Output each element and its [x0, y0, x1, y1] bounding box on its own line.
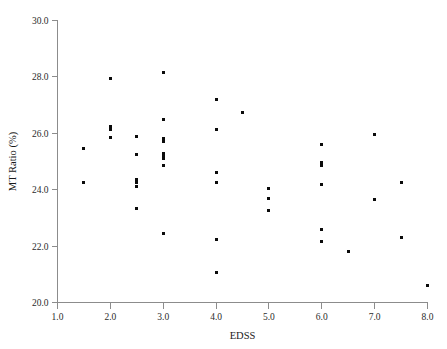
y-tick-label-2: 24.0: [32, 185, 49, 195]
data-point: [215, 128, 218, 131]
data-point: [320, 183, 323, 186]
data-point: [135, 178, 138, 181]
x-tick-label-2: 3.0: [157, 312, 169, 322]
data-point: [109, 128, 112, 131]
data-point: [373, 133, 376, 136]
y-tick-label-5: 30.0: [32, 16, 49, 26]
data-point: [320, 164, 323, 167]
scatter-chart: 20.022.024.026.028.030.01.02.03.04.05.06…: [0, 0, 447, 349]
x-tick-label-5: 6.0: [316, 312, 328, 322]
data-point: [162, 71, 165, 74]
data-point: [162, 140, 165, 143]
data-point: [215, 181, 218, 184]
data-point: [267, 209, 270, 212]
data-point: [347, 250, 350, 253]
x-tick-label-0: 1.0: [52, 312, 64, 322]
data-point: [320, 240, 323, 243]
data-point: [215, 171, 218, 174]
data-point: [135, 185, 138, 188]
data-point: [109, 136, 112, 139]
data-point: [267, 187, 270, 190]
plot-canvas: 20.022.024.026.028.030.01.02.03.04.05.06…: [0, 0, 447, 349]
data-point: [109, 77, 112, 80]
data-point: [135, 135, 138, 138]
y-tick-label-3: 26.0: [32, 129, 49, 139]
x-tick-label-7: 8.0: [422, 312, 434, 322]
data-point: [215, 271, 218, 274]
data-point: [215, 98, 218, 101]
y-axis-title: MT Ratio (%): [7, 131, 19, 191]
data-point: [162, 157, 165, 160]
data-point: [135, 153, 138, 156]
data-point: [400, 236, 403, 239]
data-point: [162, 137, 165, 140]
data-point: [320, 228, 323, 231]
data-point: [162, 154, 165, 157]
y-tick-label-0: 20.0: [32, 298, 49, 308]
data-point: [135, 207, 138, 210]
x-tick-label-1: 2.0: [104, 312, 116, 322]
data-point: [320, 161, 323, 164]
data-point: [267, 197, 270, 200]
data-point: [373, 198, 376, 201]
data-point: [162, 118, 165, 121]
data-point: [135, 181, 138, 184]
y-tick-label-4: 28.0: [32, 72, 49, 82]
x-tick-label-3: 4.0: [210, 312, 222, 322]
data-point: [109, 125, 112, 128]
data-point: [400, 181, 403, 184]
data-point: [82, 181, 85, 184]
y-tick-label-1: 22.0: [32, 242, 49, 252]
x-axis-title: EDSS: [230, 330, 256, 341]
data-point: [215, 238, 218, 241]
data-point: [426, 284, 429, 287]
data-point: [320, 143, 323, 146]
data-point: [241, 111, 244, 114]
x-tick-label-6: 7.0: [369, 312, 381, 322]
data-point: [162, 232, 165, 235]
data-point: [162, 152, 165, 155]
x-tick-label-4: 5.0: [263, 312, 275, 322]
data-point: [82, 147, 85, 150]
data-point: [162, 164, 165, 167]
